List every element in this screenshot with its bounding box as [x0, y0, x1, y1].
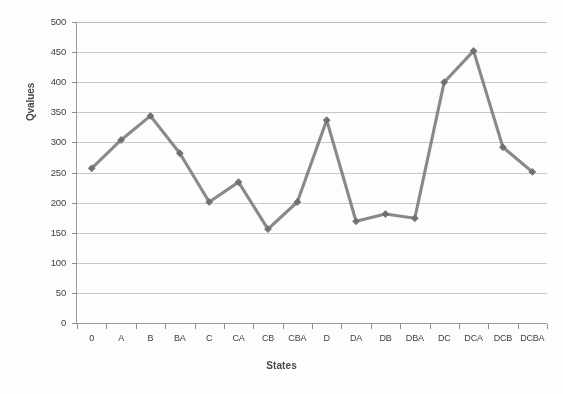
y-axis-tick-label: 350 [26, 106, 66, 117]
x-axis-tick [488, 324, 489, 329]
x-axis-tick [106, 324, 107, 329]
line-chart: Qvalues 500450400350300250200150100500 0… [0, 0, 563, 394]
x-axis-tick [341, 324, 342, 329]
y-axis-tick-label: 400 [26, 76, 66, 87]
x-axis-tick [165, 324, 166, 329]
x-axis-tick [224, 324, 225, 329]
y-axis-tick-label: 100 [26, 257, 66, 268]
x-axis-tick [136, 324, 137, 329]
gridline [77, 142, 547, 143]
x-axis-tick [77, 324, 78, 329]
x-axis-tick [459, 324, 460, 329]
x-axis-tick [253, 324, 254, 329]
y-axis-tick-label: 200 [26, 197, 66, 208]
gridline [77, 112, 547, 113]
y-axis-tick-label: 150 [26, 227, 66, 238]
x-axis-tick [195, 324, 196, 329]
gridline [77, 233, 547, 234]
x-axis-tick-label: DCBA [509, 333, 555, 343]
y-axis-tick-label: 50 [26, 287, 66, 298]
x-axis-title: States [0, 360, 563, 371]
gridline [77, 52, 547, 53]
x-axis-tick [312, 324, 313, 329]
y-axis-tick-label: 500 [26, 16, 66, 27]
x-axis-tick [400, 324, 401, 329]
gridline [77, 293, 547, 294]
gridline [77, 263, 547, 264]
x-axis-tick [371, 324, 372, 329]
y-axis-tick-label: 250 [26, 167, 66, 178]
y-axis-tick-label: 300 [26, 136, 66, 147]
x-axis-tick [518, 324, 519, 329]
gridline [77, 203, 547, 204]
y-axis-tick-label: 0 [26, 317, 66, 328]
plot-area [77, 22, 547, 323]
x-axis-tick [547, 324, 548, 329]
y-axis-tick-label: 450 [26, 46, 66, 57]
gridline [77, 22, 547, 23]
x-axis-tick [430, 324, 431, 329]
x-axis-tick [283, 324, 284, 329]
gridline [77, 82, 547, 83]
gridline [77, 173, 547, 174]
